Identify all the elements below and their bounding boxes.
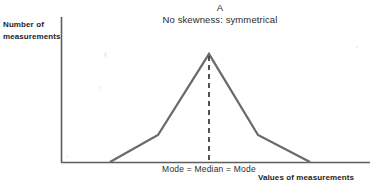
scan-speckle <box>66 156 68 158</box>
scan-speckle <box>356 46 358 48</box>
distribution-curve <box>110 54 310 162</box>
plot-area <box>0 0 388 190</box>
skewness-figure: A No skewness: symmetrical Number of mea… <box>0 0 388 190</box>
scan-speckle <box>104 52 107 57</box>
x-axis-label: Values of measurements <box>258 173 354 182</box>
scan-speckle <box>99 86 101 89</box>
